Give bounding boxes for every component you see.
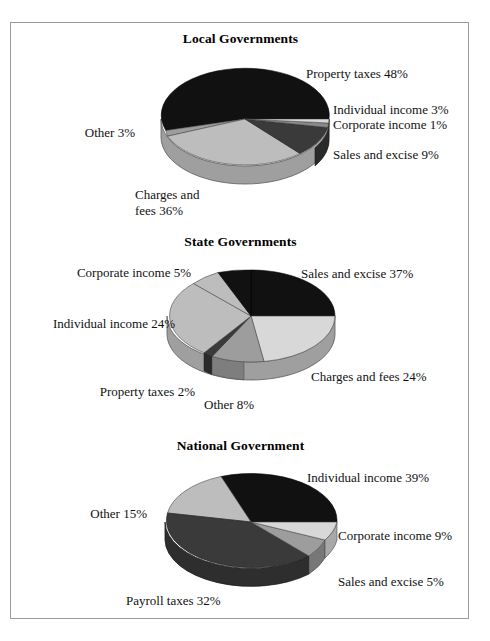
pie-slices-local [161,68,329,165]
label-individual-income-state: Individual income 24% [11,316,175,331]
pie-slices-national [166,474,337,568]
label-other-local: Other 3% [11,125,135,140]
label-payroll-taxes-national: Payroll taxes 32% [126,593,221,608]
label-sales-and-excise-national: Sales and excise 5% [338,574,444,589]
label-corporate-income-state: Corporate income 5% [11,265,191,280]
chart-title-local-governments: Local Governments [11,31,470,47]
label-charges-and-fees-local-line1: Charges and [135,187,199,202]
figure-page: Local Governments [0,0,490,641]
label-property-taxes-state: Property taxes 2% [11,384,195,399]
chart-title-national-government: National Government [11,438,470,454]
label-corporate-income-local: Corporate income 1% [333,117,447,132]
label-sales-and-excise-state: Sales and excise 37% [301,266,413,281]
label-charges-and-fees-local-line2: fees 36% [135,203,183,218]
pie-slices-state [170,270,335,362]
label-other-national: Other 15% [11,506,147,521]
label-other-state: Other 8% [204,397,254,412]
chart-local-governments: Local Governments [11,31,470,231]
figure-frame: Local Governments [10,22,469,619]
chart-state-governments: State Governments [11,234,470,434]
chart-national-government: National Government [11,438,470,628]
label-property-taxes-local: Property taxes 48% [306,66,408,81]
chart-title-state-governments: State Governments [11,234,470,250]
label-corporate-income-national: Corporate income 9% [338,528,452,543]
label-individual-income-local: Individual income 3% [333,102,449,117]
label-individual-income-national: Individual income 39% [307,470,429,485]
label-charges-and-fees-state: Charges and fees 24% [311,369,427,384]
label-sales-and-excise-local: Sales and excise 9% [333,147,439,162]
